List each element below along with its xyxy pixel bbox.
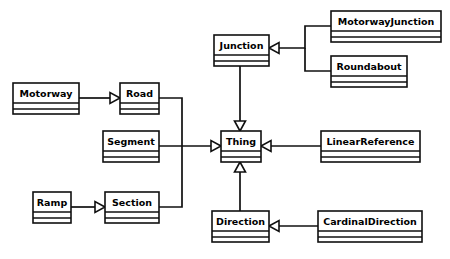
class-box-linearreference[interactable]: LinearReference (321, 131, 420, 162)
class-name-cardinaldirection: CardinalDirection (323, 216, 417, 227)
class-box-roundabout[interactable]: Roundabout (331, 56, 407, 87)
class-name-segment: Segment (107, 136, 155, 147)
class-box-cardinaldirection[interactable]: CardinalDirection (318, 211, 422, 242)
class-box-thing[interactable]: Thing (221, 131, 261, 162)
relationship-ramp-section (71, 202, 105, 213)
class-box-road[interactable]: Road (120, 83, 159, 114)
relationship-segment-thing (159, 141, 221, 152)
class-box-ramp[interactable]: Ramp (33, 192, 71, 223)
diagram-canvas: Motorway Road Segment Ramp S (0, 0, 450, 259)
class-name-direction: Direction (216, 216, 265, 227)
class-box-section[interactable]: Section (105, 192, 159, 223)
relationship-direction-thing (235, 162, 246, 211)
class-box-segment[interactable]: Segment (103, 131, 159, 162)
class-name-junction: Junction (219, 40, 264, 51)
class-box-motorway[interactable]: Motorway (13, 83, 79, 114)
class-name-ramp: Ramp (37, 197, 68, 208)
class-box-junction[interactable]: Junction (214, 35, 269, 66)
class-name-section: Section (112, 197, 152, 208)
class-box-direction[interactable]: Direction (212, 211, 269, 242)
class-box-motorwayjunction[interactable]: MotorwayJunction (331, 11, 441, 42)
class-name-roundabout: Roundabout (336, 61, 402, 72)
class-name-linearreference: LinearReference (327, 136, 415, 147)
relationship-roundabout-junction (305, 48, 331, 71)
class-name-thing: Thing (226, 136, 256, 147)
uml-class-diagram: Motorway Road Segment Ramp S (0, 0, 450, 259)
relationship-motorwayjunction-junction (269, 26, 331, 54)
relationship-cardinaldirection-direction (269, 221, 318, 232)
relationship-section-thing (159, 146, 182, 207)
class-name-road: Road (126, 88, 153, 99)
class-name-motorwayjunction: MotorwayJunction (338, 16, 435, 27)
class-name-motorway: Motorway (20, 88, 74, 99)
relationship-linearreference-thing (261, 141, 321, 152)
relationship-road-thing (159, 98, 182, 146)
relationship-motorway-road (79, 93, 120, 104)
relationship-junction-thing (235, 66, 246, 131)
